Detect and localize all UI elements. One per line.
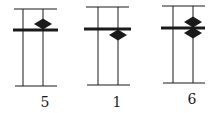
- figure-label: 5: [41, 94, 50, 110]
- diagram-canvas: 5 1 6: [0, 0, 216, 113]
- figure-5: 5: [13, 9, 58, 110]
- figure-label: 1: [113, 94, 122, 110]
- diamond-marker-icon: [184, 17, 202, 28]
- figure-label: 6: [188, 91, 197, 107]
- diamond-marker-icon: [109, 30, 127, 41]
- figure-1: 1: [84, 7, 131, 110]
- diamond-marker-icon: [34, 19, 52, 30]
- figure-6: 6: [161, 6, 205, 107]
